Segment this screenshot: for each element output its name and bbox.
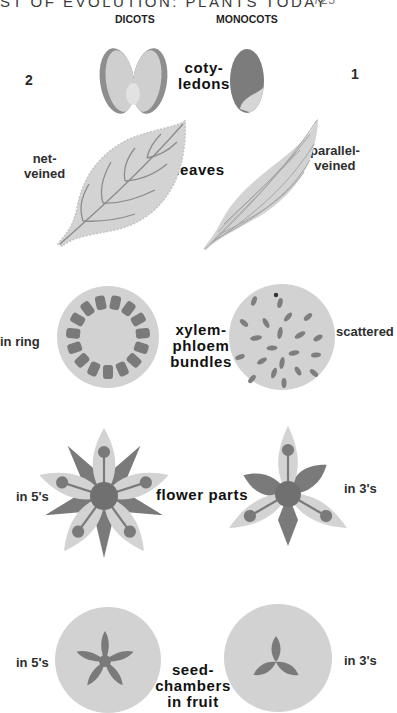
feature-xylem-phloem-bundles: xylem- phloem bundles [166,322,236,370]
stem-section-scattered-bundles-icon [228,283,336,391]
three-part-flower-icon [240,424,336,554]
three-chamber-fruit-section-icon [224,604,332,712]
page-number: 725 [313,0,336,7]
monocot-bundle-label: scattered [336,324,394,339]
monocot-fruit-label: in 3's [344,653,377,668]
dicot-cotyledon-count: 2 [25,72,33,88]
feature-flower-parts: flower parts [154,487,250,503]
monocot-cotyledon-count: 1 [351,66,359,82]
feature-seed-chambers-in-fruit: seed- chambers in fruit [155,662,231,710]
five-chamber-fruit-section-icon [55,607,161,713]
parallel-veined-leaf-icon [200,116,320,251]
net-veined-leaf-icon [55,118,190,248]
two-cotyledon-seed-icon [97,46,172,116]
monocot-flower-label: in 3's [344,481,377,496]
five-part-flower-icon [48,426,158,561]
one-cotyledon-seed-icon [228,47,268,117]
running-header: ST OF EVOLUTION: PLANTS TODAY 725 [0,0,397,10]
column-header-dicots: DICOTS [115,13,155,25]
column-header-monocots: MONOCOTS [216,13,278,25]
dicot-bundle-label: in ring [0,334,40,349]
stem-section-ring-bundles-icon [56,285,160,389]
dicot-fruit-label: in 5's [16,655,49,670]
feature-cotyledons: coty- ledons [176,60,232,92]
dicot-flower-label: in 5's [16,489,49,504]
running-title: ST OF EVOLUTION: PLANTS TODAY [0,0,328,10]
